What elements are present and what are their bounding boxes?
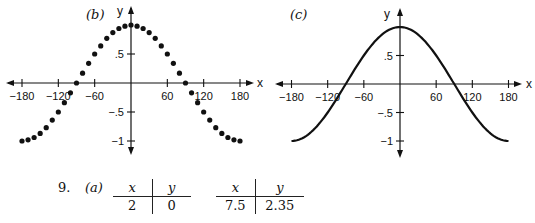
table-cell-y: 2.35 — [255, 197, 304, 215]
data-point — [189, 90, 194, 95]
table-row: 2 0 — [113, 197, 191, 215]
x-tick-label: −60 — [85, 90, 104, 102]
data-point — [195, 100, 200, 105]
value-table-2: x y 7.5 2.35 — [216, 179, 304, 214]
y-axis-up-arrow-icon — [128, 6, 134, 14]
data-point — [147, 30, 152, 35]
y-axis-name-c: y — [384, 7, 390, 21]
data-point — [128, 22, 133, 27]
chart-panel-c: (c) x y −180−120−6060120180.5−.5−1 — [275, 7, 532, 158]
data-point — [153, 36, 158, 41]
y-axis-down-arrow-icon — [128, 147, 134, 155]
y-axis-up-arrow-icon — [397, 8, 403, 16]
data-point — [213, 125, 218, 130]
data-point — [62, 100, 67, 105]
table-cell-y: 0 — [152, 197, 191, 215]
problem-part: (a) — [85, 180, 103, 195]
data-point — [237, 138, 242, 143]
data-point — [44, 125, 49, 130]
y-tick-label: −.5 — [377, 107, 393, 119]
y-tick-label: −1 — [380, 135, 393, 147]
y-tick-label: .5 — [115, 48, 124, 60]
y-axis-down-arrow-icon — [397, 150, 403, 158]
x-axis-right-arrow-icon — [514, 81, 522, 87]
y-tick-label: .5 — [384, 50, 393, 62]
data-point — [116, 26, 121, 31]
table-header-x: x — [216, 179, 255, 197]
data-point — [183, 80, 188, 85]
data-point — [219, 131, 224, 136]
y-tick-label: −.5 — [108, 106, 124, 118]
problem-number: 9. — [58, 180, 70, 195]
data-point — [201, 109, 206, 114]
x-tick-label: −60 — [354, 91, 373, 103]
data-point — [19, 138, 24, 143]
data-point — [74, 80, 79, 85]
data-point — [122, 24, 127, 29]
data-point — [225, 135, 230, 140]
data-point — [177, 71, 182, 76]
x-tick-label: −180 — [279, 91, 304, 103]
x-axis-name-c: x — [526, 77, 532, 91]
data-point — [50, 118, 55, 123]
table-header-y: y — [255, 179, 304, 197]
data-point — [92, 51, 97, 56]
x-axis-name-b: x — [257, 76, 263, 90]
x-tick-label: 180 — [231, 90, 249, 102]
ticks-c: −180−120−6060120180.5−.5−1 — [279, 50, 518, 148]
x-tick-label: 180 — [499, 91, 517, 103]
x-axis-left-arrow-icon — [6, 80, 14, 86]
data-point — [80, 71, 85, 76]
table-header-y: y — [152, 179, 191, 197]
table-cell-x: 7.5 — [216, 197, 255, 215]
data-point — [104, 36, 109, 41]
data-point — [159, 43, 164, 48]
data-point — [110, 30, 115, 35]
data-point — [68, 90, 73, 95]
data-point — [207, 118, 212, 123]
y-axis-name-b: y — [117, 4, 123, 18]
data-point — [141, 26, 146, 31]
table-row: 7.5 2.35 — [216, 197, 304, 215]
data-point — [86, 61, 91, 66]
data-point — [25, 137, 30, 142]
ticks-b: −180−120−6060120180.5−.5−1 — [10, 48, 250, 147]
data-point — [38, 131, 43, 136]
data-point — [165, 51, 170, 56]
x-tick-label: −180 — [10, 90, 35, 102]
x-tick-label: 60 — [430, 91, 442, 103]
x-tick-label: 60 — [161, 90, 173, 102]
table-header-x: x — [113, 179, 152, 197]
x-tick-label: −120 — [46, 90, 71, 102]
y-tick-label: −1 — [111, 135, 124, 147]
data-point — [32, 135, 37, 140]
panel-label-c: (c) — [290, 7, 307, 22]
data-point — [171, 61, 176, 66]
chart-panel-b: (b) x y −180−120−6060120180.5−.5−1 — [6, 4, 263, 155]
panel-label-b: (b) — [86, 7, 104, 22]
table-cell-x: 2 — [113, 197, 152, 215]
data-point — [98, 43, 103, 48]
data-point — [56, 109, 61, 114]
value-table-1: x y 2 0 — [113, 179, 191, 214]
data-point — [231, 137, 236, 142]
data-point — [134, 24, 139, 29]
x-axis-right-arrow-icon — [246, 80, 254, 86]
x-axis-left-arrow-icon — [275, 81, 283, 87]
